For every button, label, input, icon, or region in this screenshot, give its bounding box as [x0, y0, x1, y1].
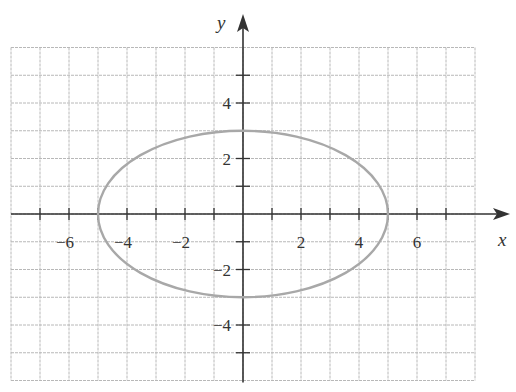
x-tick-label: −2 [172, 233, 190, 252]
axes [11, 14, 510, 383]
y-tick-label: 4 [223, 94, 232, 113]
y-axis-label: y [215, 12, 226, 33]
x-tick-label: −6 [56, 233, 74, 252]
x-tick-label: 4 [355, 233, 364, 252]
y-tick-label: −4 [213, 316, 232, 335]
x-axis-label: x [497, 229, 507, 250]
y-tick-label: −2 [213, 261, 231, 280]
x-tick-label: 6 [413, 233, 422, 252]
x-tick-label: 2 [297, 233, 306, 252]
x-tick-label: −4 [114, 233, 133, 252]
y-tick-label: 2 [223, 150, 232, 169]
ellipse-graph: −6−4−2246−4−224 x y [0, 0, 516, 392]
